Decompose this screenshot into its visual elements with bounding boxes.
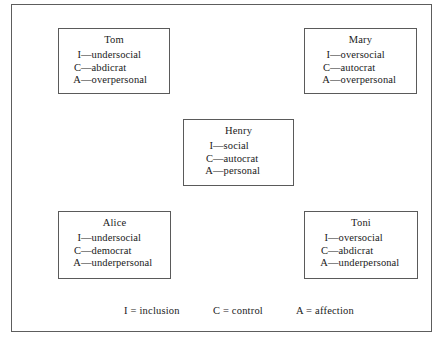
trait-code: A (203, 165, 213, 178)
trait-dash: — (81, 232, 92, 243)
trait-code: A (320, 74, 330, 87)
trait-list-henry: I—social C—autocrat A—personal (184, 137, 293, 178)
trait-dash: — (81, 62, 92, 73)
figure-container: Tom I—undersocial C—abdicrat A—overperso… (0, 0, 447, 343)
trait-code: I (320, 49, 330, 62)
trait-value: personal (224, 165, 260, 176)
person-name-tom: Tom (59, 29, 169, 46)
trait-affection-toni: A—underpersonal (318, 257, 417, 270)
trait-affection-tom: A—overpersonal (71, 74, 169, 87)
trait-code: C (71, 62, 81, 75)
trait-dash: — (328, 257, 339, 268)
trait-inclusion-tom: I—undersocial (71, 49, 169, 62)
legend-affection: A = affection (296, 304, 354, 318)
trait-control-henry: C—autocrat (203, 153, 293, 166)
trait-code: A (318, 257, 328, 270)
trait-affection-henry: A—personal (203, 165, 293, 178)
trait-control-toni: C—abdicrat (318, 245, 417, 258)
trait-value: autocrat (341, 62, 376, 73)
trait-dash: — (330, 74, 341, 85)
person-name-mary: Mary (305, 29, 416, 46)
trait-value: overpersonal (92, 74, 147, 85)
trait-control-tom: C—abdicrat (71, 62, 169, 75)
trait-value: autocrat (224, 153, 259, 164)
legend-inclusion: I = inclusion (124, 304, 180, 318)
trait-value: undersocial (92, 232, 142, 243)
trait-dash: — (213, 153, 224, 164)
person-box-tom: Tom I—undersocial C—abdicrat A—overperso… (58, 28, 170, 94)
figure-outer-frame: Tom I—undersocial C—abdicrat A—overperso… (11, 4, 432, 332)
trait-dash: — (328, 232, 339, 243)
trait-inclusion-alice: I—undersocial (71, 232, 170, 245)
trait-value: overpersonal (341, 74, 396, 85)
trait-list-toni: I—oversocial C—abdicrat A—underpersonal (305, 229, 417, 270)
trait-control-alice: C—democrat (71, 245, 170, 258)
trait-dash: — (81, 49, 92, 60)
trait-inclusion-mary: I—oversocial (320, 49, 416, 62)
person-name-henry: Henry (184, 120, 293, 137)
trait-value: oversocial (341, 49, 385, 60)
trait-code: A (71, 74, 81, 87)
trait-code: I (203, 140, 213, 153)
person-box-toni: Toni I—oversocial C—abdicrat A—underpers… (304, 211, 418, 279)
trait-dash: — (330, 49, 341, 60)
trait-list-mary: I—oversocial C—autocrat A—overpersonal (305, 46, 416, 87)
trait-code: A (71, 257, 81, 270)
person-name-alice: Alice (59, 212, 170, 229)
trait-code: C (203, 153, 213, 166)
trait-dash: — (81, 74, 92, 85)
trait-control-mary: C—autocrat (320, 62, 416, 75)
legend: I = inclusion C = control A = affection (124, 304, 354, 318)
trait-code: I (71, 49, 81, 62)
trait-dash: — (213, 165, 224, 176)
trait-list-tom: I—undersocial C—abdicrat A—overpersonal (59, 46, 169, 87)
trait-value: undersocial (92, 49, 142, 60)
trait-code: C (320, 62, 330, 75)
trait-code: C (318, 245, 328, 258)
trait-inclusion-henry: I—social (203, 140, 293, 153)
trait-code: I (318, 232, 328, 245)
trait-value: underpersonal (92, 257, 153, 268)
trait-inclusion-toni: I—oversocial (318, 232, 417, 245)
trait-value: oversocial (339, 232, 383, 243)
trait-value: underpersonal (339, 257, 400, 268)
person-box-alice: Alice I—undersocial C—democrat A—underpe… (58, 211, 171, 279)
trait-dash: — (330, 62, 341, 73)
trait-dash: — (81, 257, 92, 268)
trait-dash: — (213, 140, 224, 151)
trait-affection-alice: A—underpersonal (71, 257, 170, 270)
person-name-toni: Toni (305, 212, 417, 229)
person-box-mary: Mary I—oversocial C—autocrat A—overperso… (304, 28, 417, 94)
trait-value: abdicrat (92, 62, 127, 73)
trait-dash: — (328, 245, 339, 256)
trait-value: abdicrat (339, 245, 374, 256)
trait-value: social (224, 140, 249, 151)
trait-dash: — (81, 245, 92, 256)
trait-value: democrat (92, 245, 132, 256)
trait-list-alice: I—undersocial C—democrat A—underpersonal (59, 229, 170, 270)
legend-control: C = control (213, 304, 263, 318)
trait-code: C (71, 245, 81, 258)
person-box-henry: Henry I—social C—autocrat A—personal (183, 119, 294, 186)
trait-code: I (71, 232, 81, 245)
trait-affection-mary: A—overpersonal (320, 74, 416, 87)
